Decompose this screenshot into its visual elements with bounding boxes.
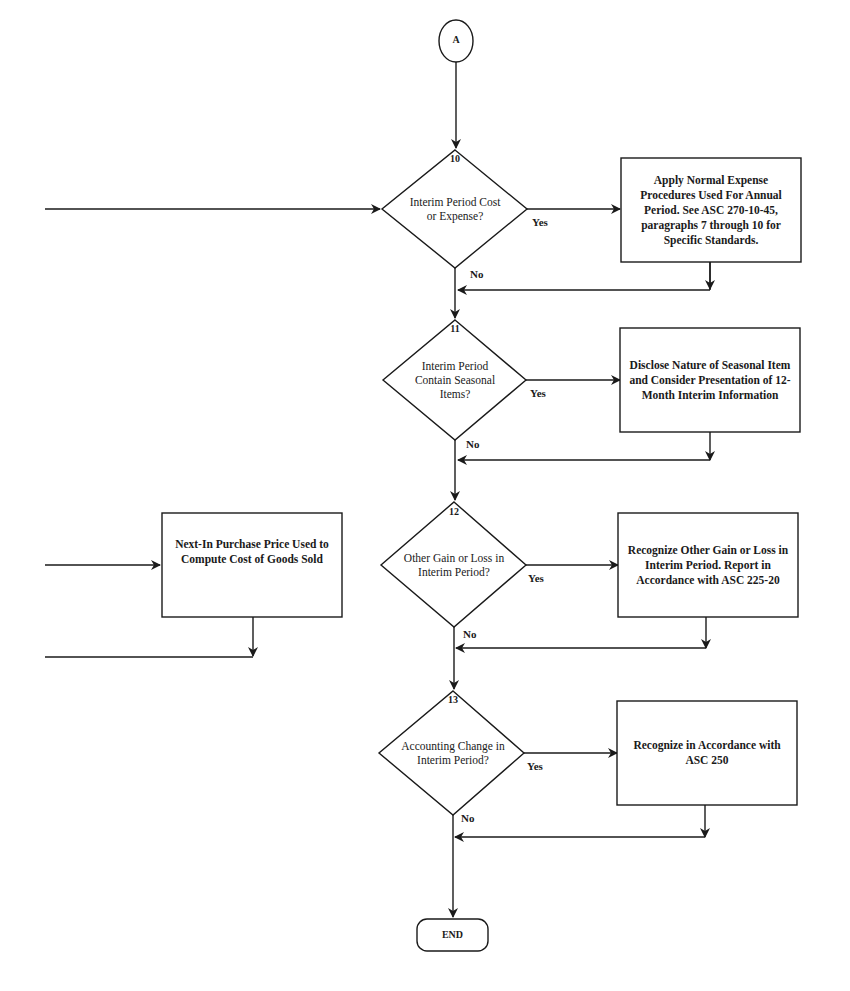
end-terminal-label: END (417, 929, 488, 940)
decision-13-number: 13 (443, 694, 463, 705)
connector-a-label: A (446, 34, 466, 45)
decision-12-no-label: No (463, 628, 476, 640)
action-11-text: Disclose Nature of Seasonal Item and Con… (627, 332, 793, 428)
decision-12-number: 12 (444, 506, 464, 517)
decision-13-yes-label: Yes (527, 760, 543, 772)
decision-10-no-label: No (470, 268, 483, 280)
action-13-text: Recognize in Accordance with ASC 250 (624, 705, 790, 801)
decision-11-no-label: No (466, 438, 479, 450)
decision-11-number: 11 (445, 323, 465, 334)
decision-10-yes-label: Yes (532, 216, 548, 228)
decision-10-number: 10 (445, 153, 465, 164)
decision-13-no-label: No (461, 812, 474, 824)
decision-10-text: Interim Period Cost or Expense? (405, 185, 505, 233)
flowchart-lines (0, 0, 850, 991)
action-10-text: Apply Normal Expense Procedures Used For… (628, 162, 794, 258)
decision-12-text: Other Gain or Loss in Interim Period? (402, 541, 506, 589)
decision-13-text: Accounting Change in Interim Period? (399, 729, 507, 777)
decision-11-text: Interim Period Contain Seasonal Items? (403, 356, 507, 404)
decision-11-yes-label: Yes (530, 387, 546, 399)
decision-12-yes-label: Yes (528, 572, 544, 584)
action-12-text: Recognize Other Gain or Loss in Interim … (625, 517, 791, 613)
side-action-text: Next-In Purchase Price Used to Compute C… (167, 517, 337, 587)
